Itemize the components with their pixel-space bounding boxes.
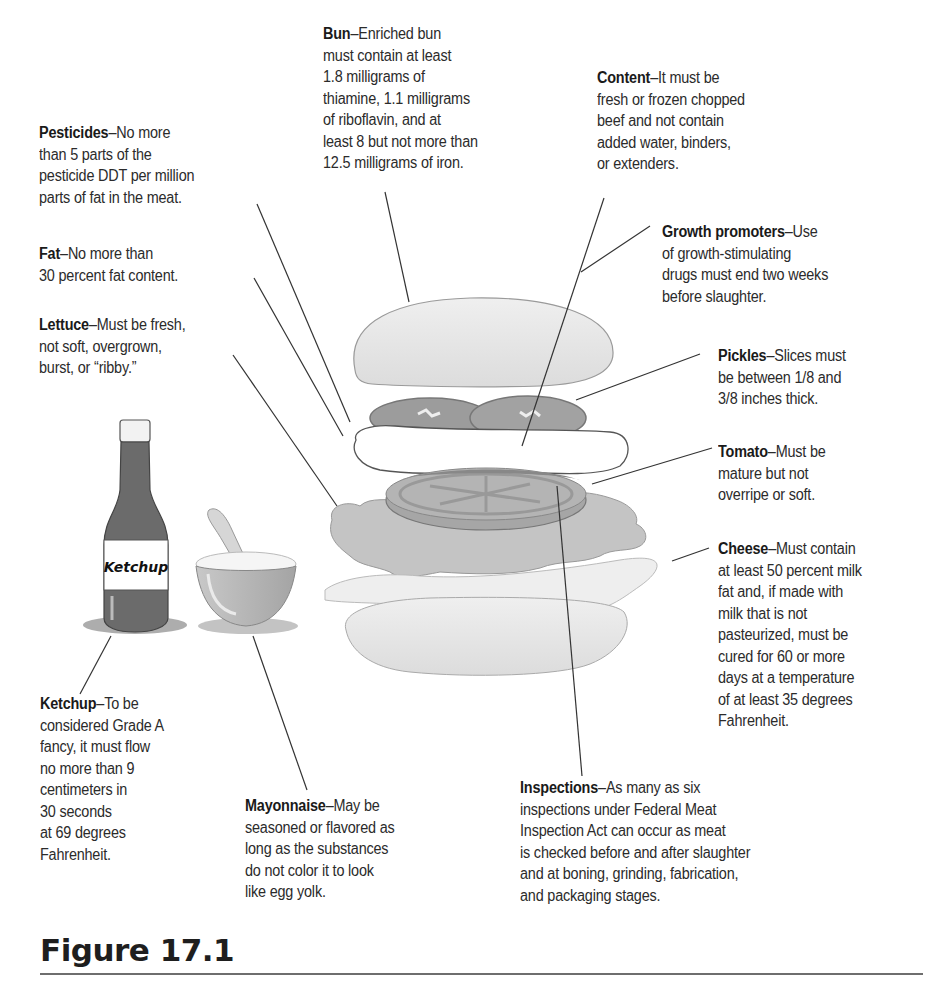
leader-cheese <box>672 548 709 561</box>
callout-growth-promoters: Growth promoters–Use of growth-stimulati… <box>662 221 828 307</box>
bottle-label-text: Ketchup <box>104 559 169 575</box>
callout-title: Cheese <box>718 540 768 557</box>
callout-title: Bun <box>323 25 350 42</box>
callout-title: Pickles <box>718 347 766 364</box>
callout-tomato: Tomato–Must be mature but not overripe o… <box>718 441 826 506</box>
callout-mayonnaise: Mayonnaise–May be seasoned or flavored a… <box>245 795 395 903</box>
callout-pesticides: Pesticides–No more than 5 parts of the p… <box>39 122 194 208</box>
callout-title: Ketchup <box>40 695 96 712</box>
ketchup-bottle: Ketchup <box>83 420 187 634</box>
bottom-bun <box>345 597 627 675</box>
top-bun <box>354 298 613 387</box>
callout-ketchup: Ketchup–To be considered Grade A fancy, … <box>40 693 164 865</box>
leader-mayonnaise <box>253 636 307 790</box>
callout-title: Tomato <box>718 443 768 460</box>
mayonnaise-bowl <box>196 509 298 634</box>
callout-title: Inspections <box>520 779 598 796</box>
leader-lettuce <box>233 355 337 506</box>
patty <box>354 426 628 474</box>
figure-title: Figure 17.1 <box>40 932 234 968</box>
callout-fat: Fat–No more than 30 percent fat content. <box>39 243 178 286</box>
callout-cheese: Cheese–Must contain at least 50 percent … <box>718 538 862 732</box>
callout-title: Content <box>597 69 650 86</box>
callout-title: Lettuce <box>39 316 89 333</box>
callout-pickles: Pickles–Slices must be between 1/8 and 3… <box>718 345 846 410</box>
callout-title: Pesticides <box>39 124 108 141</box>
callout-title: Growth promoters <box>662 223 785 240</box>
leader-ketchup <box>80 636 111 694</box>
callout-title: Mayonnaise <box>245 797 326 814</box>
figure-divider <box>40 973 923 975</box>
leader-pesticides <box>257 204 350 422</box>
callout-title: Fat <box>39 245 60 262</box>
callout-content: Content–It must be fresh or frozen chopp… <box>597 67 745 175</box>
callout-lettuce: Lettuce–Must be fresh, not soft, overgro… <box>39 314 186 379</box>
callout-bun: Bun–Enriched bun must contain at least 1… <box>323 23 478 174</box>
leader-bun <box>385 192 409 302</box>
leader-growth <box>581 226 650 272</box>
callout-inspections: Inspections–As many as six inspections u… <box>520 777 750 906</box>
